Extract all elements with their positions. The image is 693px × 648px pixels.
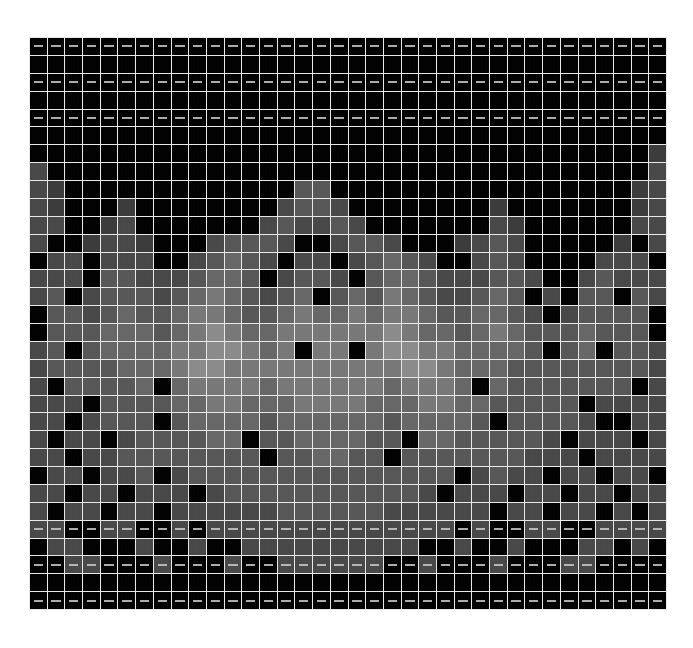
- heatmap-cell: [278, 521, 295, 538]
- cell-dash-marker: [317, 564, 326, 566]
- heatmap-cell: [30, 181, 47, 198]
- heatmap-cell: [349, 235, 366, 252]
- heatmap-cell: [313, 467, 330, 484]
- heatmap-cell: [490, 163, 507, 180]
- heatmap-cell: [225, 199, 242, 216]
- heatmap-cell: [331, 253, 348, 270]
- heatmap-cell: [207, 324, 224, 341]
- heatmap-cell: [154, 521, 171, 538]
- heatmap-cell: [525, 253, 542, 270]
- heatmap-cell: [278, 431, 295, 448]
- heatmap-cell: [65, 235, 82, 252]
- heatmap-cell: [455, 378, 472, 395]
- heatmap-cell: [543, 92, 560, 109]
- heatmap-cell: [543, 449, 560, 466]
- heatmap-cell: [349, 556, 366, 573]
- heatmap-cell: [596, 181, 613, 198]
- heatmap-cell: [295, 270, 312, 287]
- heatmap-cell: [278, 592, 295, 609]
- heatmap-cell: [596, 521, 613, 538]
- heatmap-cell: [349, 127, 366, 144]
- heatmap-cell: [260, 360, 277, 377]
- heatmap-cell: [189, 181, 206, 198]
- heatmap-cell: [561, 288, 578, 305]
- heatmap-cell: [83, 253, 100, 270]
- heatmap-cell: [649, 539, 666, 556]
- cell-dash-marker: [529, 117, 538, 119]
- heatmap-cell: [543, 199, 560, 216]
- heatmap-cell: [632, 38, 649, 55]
- cell-dash-marker: [69, 45, 78, 47]
- heatmap-cell: [349, 539, 366, 556]
- heatmap-cell: [154, 199, 171, 216]
- heatmap-cell: [419, 521, 436, 538]
- heatmap-cell: [207, 92, 224, 109]
- cell-dash-marker: [476, 528, 485, 530]
- heatmap-cell: [30, 127, 47, 144]
- heatmap-cell: [154, 92, 171, 109]
- heatmap-cell: [543, 163, 560, 180]
- heatmap-cell: [48, 270, 65, 287]
- heatmap-cell: [614, 485, 631, 502]
- heatmap-cell: [189, 145, 206, 162]
- heatmap-cell: [614, 539, 631, 556]
- heatmap-cell: [561, 181, 578, 198]
- heatmap-cell: [242, 556, 259, 573]
- heatmap-cell: [30, 288, 47, 305]
- heatmap-cell: [543, 110, 560, 127]
- cell-dash-marker: [441, 564, 450, 566]
- heatmap-cell: [579, 288, 596, 305]
- heatmap-cell: [118, 592, 135, 609]
- heatmap-cell: [490, 485, 507, 502]
- heatmap-cell: [649, 92, 666, 109]
- heatmap-cell: [225, 431, 242, 448]
- heatmap-cell: [419, 378, 436, 395]
- heatmap-cell: [419, 556, 436, 573]
- heatmap-cell: [508, 288, 525, 305]
- heatmap-cell: [525, 413, 542, 430]
- heatmap-cell: [579, 413, 596, 430]
- heatmap-cell: [154, 342, 171, 359]
- heatmap-cell: [225, 342, 242, 359]
- heatmap-cell: [508, 217, 525, 234]
- heatmap-cell: [101, 288, 118, 305]
- heatmap-cell: [525, 342, 542, 359]
- heatmap-cell: [48, 431, 65, 448]
- heatmap-cell: [278, 324, 295, 341]
- heatmap-cell: [649, 324, 666, 341]
- heatmap-cell: [30, 521, 47, 538]
- heatmap-cell: [313, 288, 330, 305]
- heatmap-cell: [30, 503, 47, 520]
- heatmap-cell: [525, 110, 542, 127]
- heatmap-cell: [455, 485, 472, 502]
- heatmap-cell: [207, 574, 224, 591]
- heatmap-cell: [632, 324, 649, 341]
- heatmap-cell: [189, 56, 206, 73]
- heatmap-cell: [579, 110, 596, 127]
- heatmap-cell: [561, 378, 578, 395]
- cell-dash-marker: [140, 564, 149, 566]
- heatmap-cell: [632, 360, 649, 377]
- cell-dash-marker: [547, 564, 556, 566]
- cell-dash-marker: [334, 528, 343, 530]
- heatmap-cell: [48, 92, 65, 109]
- heatmap-cell: [136, 110, 153, 127]
- heatmap-cell: [260, 235, 277, 252]
- cell-dash-marker: [653, 600, 662, 602]
- heatmap-cell: [419, 163, 436, 180]
- heatmap-cell: [65, 270, 82, 287]
- heatmap-cell: [225, 145, 242, 162]
- heatmap-cell: [490, 92, 507, 109]
- heatmap-cell: [295, 110, 312, 127]
- heatmap-cell: [278, 556, 295, 573]
- heatmap-cell: [101, 217, 118, 234]
- heatmap-cell: [207, 235, 224, 252]
- heatmap-cell: [189, 485, 206, 502]
- cell-dash-marker: [529, 564, 538, 566]
- cell-dash-marker: [582, 81, 591, 83]
- heatmap-cell: [366, 181, 383, 198]
- heatmap-cell: [136, 574, 153, 591]
- heatmap-cell: [172, 288, 189, 305]
- heatmap-cell: [30, 253, 47, 270]
- heatmap-cell: [579, 539, 596, 556]
